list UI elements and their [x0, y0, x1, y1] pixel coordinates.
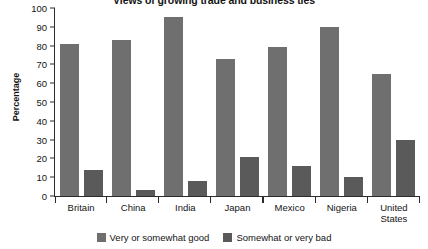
x-axis-category-separator: [210, 196, 211, 203]
bar-groups: [55, 8, 420, 196]
bar: [240, 157, 259, 196]
y-axis-tick-label: 30: [36, 134, 47, 145]
y-axis-tick-label: 0: [42, 191, 47, 202]
legend-label: Somewhat or very bad: [236, 232, 331, 243]
y-axis-tick-label: 60: [36, 78, 47, 89]
bar-group: [211, 8, 263, 196]
legend-item[interactable]: Somewhat or very bad: [223, 232, 331, 243]
bar-group-bars: [316, 8, 368, 196]
bar-group: [316, 8, 368, 196]
x-axis-category-separator: [55, 196, 56, 203]
y-axis-tick: 90: [36, 21, 55, 32]
y-axis-tick-label: 100: [31, 3, 47, 14]
bar: [84, 170, 103, 196]
bar-group: [55, 8, 107, 196]
bar: [372, 74, 391, 196]
y-axis-tick-label: 40: [36, 115, 47, 126]
y-axis-tick-label: 50: [36, 97, 47, 108]
y-axis-tick: 50: [36, 97, 55, 108]
y-axis-tick: 70: [36, 59, 55, 70]
chart-title: Views of growing trade and business ties: [0, 0, 428, 6]
x-axis-category-separator: [367, 196, 368, 203]
y-axis-tick: 40: [36, 115, 55, 126]
x-axis-category-separator: [158, 196, 159, 203]
x-axis-label: Nigeria: [316, 203, 368, 224]
bar: [292, 166, 311, 196]
x-axis-label: Japan: [211, 203, 263, 224]
x-axis-labels: BritainChinaIndiaJapanMexicoNigeriaUnite…: [55, 203, 420, 224]
bar: [112, 40, 131, 196]
bar-group: [159, 8, 211, 196]
y-axis-tick: 0: [42, 191, 55, 202]
bar-group: [264, 8, 316, 196]
x-axis-label: Britain: [55, 203, 107, 224]
bar-group-bars: [368, 8, 420, 196]
y-axis-tick: 10: [36, 172, 55, 183]
y-axis-tick-label: 20: [36, 153, 47, 164]
y-axis-tick-label: 70: [36, 59, 47, 70]
y-axis-tick: 80: [36, 40, 55, 51]
bar: [396, 140, 415, 196]
bar-group: [368, 8, 420, 196]
plot-area: 1009080706050403020100: [55, 8, 420, 196]
bar-group-bars: [107, 8, 159, 196]
y-axis-tick: 60: [36, 78, 55, 89]
legend-item[interactable]: Very or somewhat good: [97, 232, 210, 243]
x-axis-category-separator: [419, 196, 420, 203]
bar: [60, 44, 79, 196]
bar: [344, 177, 363, 196]
bar: [268, 47, 287, 196]
bar-group: [107, 8, 159, 196]
y-axis-tick: 30: [36, 134, 55, 145]
y-axis-title: Percentage: [11, 57, 21, 137]
y-axis-tick: 100: [31, 3, 55, 14]
legend-swatch: [97, 233, 106, 242]
legend-swatch: [223, 233, 232, 242]
bar: [136, 190, 155, 196]
x-axis-category-separator: [106, 196, 107, 203]
x-axis-label: United States: [368, 203, 420, 224]
bar-group-bars: [211, 8, 263, 196]
bar: [164, 17, 183, 196]
bar-group-bars: [159, 8, 211, 196]
legend-label: Very or somewhat good: [110, 232, 210, 243]
y-axis-tick-label: 10: [36, 172, 47, 183]
y-axis-tick: 20: [36, 153, 55, 164]
bar: [216, 59, 235, 196]
x-axis-label: Mexico: [264, 203, 316, 224]
bar-group-bars: [55, 8, 107, 196]
bar-chart: Views of growing trade and business ties…: [0, 0, 428, 249]
x-axis-label: India: [159, 203, 211, 224]
bar-group-bars: [264, 8, 316, 196]
bar: [188, 181, 207, 196]
chart-legend: Very or somewhat goodSomewhat or very ba…: [0, 232, 428, 243]
x-axis-category-separator: [315, 196, 316, 203]
bar: [320, 27, 339, 196]
x-axis-category-separator: [262, 196, 263, 203]
y-axis-tick-label: 90: [36, 21, 47, 32]
x-axis-label: China: [107, 203, 159, 224]
y-axis-tick-label: 80: [36, 40, 47, 51]
